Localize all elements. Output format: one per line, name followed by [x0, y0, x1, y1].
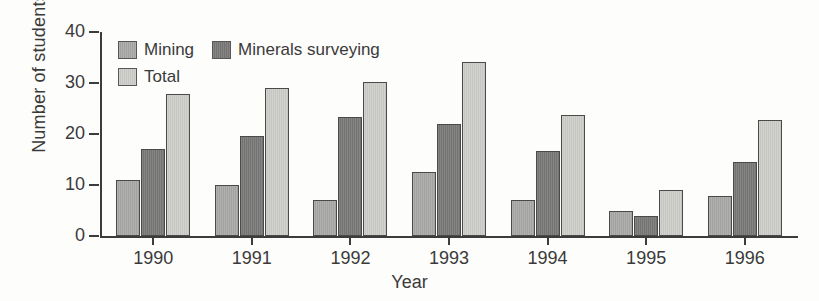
x-tick-mark — [448, 236, 450, 245]
legend-swatch-minerals-surveying-icon — [212, 41, 231, 59]
y-tick-mark — [89, 133, 99, 135]
bar-mining-1992 — [313, 200, 337, 236]
bar-minerals-surveying-1994 — [536, 151, 560, 236]
legend-label-minerals-surveying: Minerals surveying — [238, 40, 380, 60]
bar-minerals-surveying-1991 — [240, 136, 264, 236]
y-axis-title: Number of students — [29, 0, 50, 178]
y-tick-label: 20 — [65, 123, 85, 144]
legend-swatch-mining-icon — [118, 41, 137, 59]
chart-legend: Mining Minerals surveying Total — [118, 36, 398, 90]
y-tick-mark — [89, 184, 99, 186]
legend-item-total: Total — [118, 67, 180, 87]
legend-swatch-total-icon — [118, 68, 137, 86]
y-tick-label: 40 — [65, 21, 85, 42]
bar-mining-1990 — [116, 180, 140, 236]
bar-mining-1993 — [412, 172, 436, 236]
bar-total-1990 — [166, 94, 190, 236]
y-axis-line — [100, 32, 102, 236]
bar-total-1991 — [265, 88, 289, 236]
bar-mining-1991 — [215, 185, 239, 236]
x-tick-label: 1992 — [330, 248, 370, 269]
x-tick-label: 1995 — [626, 248, 666, 269]
x-tick-label: 1993 — [429, 248, 469, 269]
bar-total-1996 — [758, 120, 782, 236]
x-axis-title: Year — [0, 272, 819, 293]
bar-minerals-surveying-1995 — [634, 216, 658, 236]
x-tick-label: 1991 — [232, 248, 272, 269]
x-tick-mark — [547, 236, 549, 245]
bar-total-1992 — [363, 82, 387, 236]
y-tick-mark — [89, 82, 99, 84]
legend-label-total: Total — [144, 67, 180, 87]
x-tick-mark — [744, 236, 746, 245]
y-tick-label: 0 — [75, 225, 85, 246]
legend-row-primary: Mining Minerals surveying — [118, 36, 398, 63]
legend-item-mining: Mining — [118, 40, 194, 60]
y-tick-label: 10 — [65, 174, 85, 195]
legend-label-mining: Mining — [144, 40, 194, 60]
bar-chart-figure: Number of students Year 010203040 199019… — [0, 0, 819, 301]
bar-total-1994 — [561, 115, 585, 236]
bar-minerals-surveying-1993 — [437, 124, 461, 236]
x-tick-mark — [645, 236, 647, 245]
bar-minerals-surveying-1990 — [141, 149, 165, 236]
bar-mining-1996 — [708, 196, 732, 236]
x-tick-mark — [251, 236, 253, 245]
bar-mining-1995 — [609, 211, 633, 237]
bar-mining-1994 — [511, 200, 535, 236]
legend-item-minerals-surveying: Minerals surveying — [212, 40, 380, 60]
y-tick-mark — [89, 31, 99, 33]
y-tick-label: 30 — [65, 72, 85, 93]
x-tick-label: 1990 — [133, 248, 173, 269]
x-tick-label: 1994 — [528, 248, 568, 269]
legend-row-secondary: Total — [118, 63, 398, 90]
y-tick-mark — [89, 235, 99, 237]
x-tick-mark — [349, 236, 351, 245]
x-tick-mark — [152, 236, 154, 245]
bar-minerals-surveying-1992 — [338, 117, 362, 236]
bar-total-1995 — [659, 190, 683, 236]
x-tick-label: 1996 — [725, 248, 765, 269]
bar-minerals-surveying-1996 — [733, 162, 757, 236]
bar-total-1993 — [462, 62, 486, 236]
